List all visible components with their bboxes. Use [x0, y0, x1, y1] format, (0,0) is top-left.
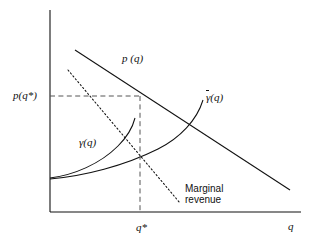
- average-cost-label: γ(q): [206, 91, 223, 103]
- x-axis-label: q: [288, 220, 294, 232]
- inverse-demand-line: [75, 50, 290, 190]
- average-cost-argument: (q): [210, 91, 223, 103]
- marginal-revenue-line-1: Marginal: [185, 183, 223, 194]
- average-cost-symbol: γ: [206, 91, 210, 103]
- q-star-tick-label: q*: [136, 221, 147, 233]
- y-axis-price-label: p(q*): [13, 89, 37, 101]
- marginal-revenue-label: Marginal revenue: [185, 183, 223, 205]
- y-axis-price-argument: (q*): [19, 89, 37, 101]
- marginal-cost-label: γ(q): [79, 136, 96, 148]
- inverse-demand-label: p (q): [122, 52, 143, 64]
- plot-canvas: [0, 0, 313, 246]
- marginal-revenue-line-2: revenue: [185, 194, 223, 205]
- economics-diagram: p(q*) p (q) γ(q) γ(q) Marginal revenue q…: [0, 0, 313, 246]
